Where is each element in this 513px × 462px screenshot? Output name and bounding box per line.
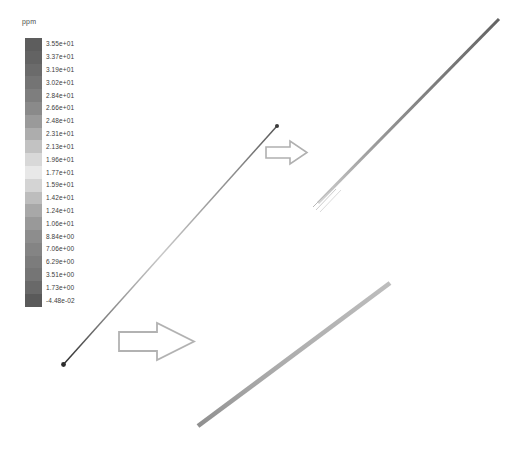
color-bar-swatch — [25, 64, 42, 77]
color-bar-tick-label: 1.06e+01 — [46, 220, 74, 228]
magnify-arrow-upper — [266, 141, 307, 164]
color-bar — [25, 38, 42, 307]
color-bar-swatch — [25, 166, 42, 179]
probe-endpoint-end — [275, 124, 279, 128]
color-bar-tick-label: 3.02e+01 — [46, 79, 74, 87]
color-bar-swatch — [25, 243, 42, 256]
color-bar-swatch — [25, 115, 42, 128]
color-bar-tick-label: 3.19e+01 — [46, 66, 74, 74]
color-bar-swatch — [25, 217, 42, 230]
color-legend: ppm 3.55e+013.37e+013.19e+013.02e+012.84… — [22, 18, 142, 318]
color-bar-swatch — [25, 102, 42, 115]
color-bar-tick-label: 1.77e+01 — [46, 169, 74, 177]
color-bar-tick-label: 2.48e+01 — [46, 117, 74, 125]
color-bar-swatch — [25, 89, 42, 102]
color-bar-swatch — [25, 179, 42, 192]
color-bar-tick-labels: 3.55e+013.37e+013.19e+013.02e+012.84e+01… — [46, 34, 138, 310]
probe-endpoint-start — [61, 362, 66, 367]
color-bar-swatch — [25, 230, 42, 243]
color-bar-tick-label: 3.51e+00 — [46, 271, 74, 279]
band-tail-upper-b — [316, 189, 336, 210]
magnified-band-upper — [313, 19, 499, 212]
color-bar-swatch — [25, 192, 42, 205]
color-bar-tick-label: 3.37e+01 — [46, 53, 74, 61]
color-bar-tick-label: 1.59e+01 — [46, 181, 74, 189]
color-bar-swatch — [25, 204, 42, 217]
color-bar-swatch — [25, 256, 42, 269]
color-bar-tick-label: 2.13e+01 — [46, 143, 74, 151]
plot-canvas: ppm 3.55e+013.37e+013.19e+013.02e+012.84… — [0, 0, 513, 462]
color-bar-swatch — [25, 140, 42, 153]
magnified-band-lower — [198, 283, 390, 426]
color-bar-swatch — [25, 38, 42, 51]
color-bar-swatch — [25, 76, 42, 89]
color-bar-tick-label: 2.66e+01 — [46, 104, 74, 112]
band-tail-upper-c — [320, 190, 341, 212]
color-bar-tick-label: 1.24e+01 — [46, 207, 74, 215]
magnify-arrow-lower-shape — [119, 323, 194, 360]
magnify-arrow-lower — [119, 323, 194, 360]
color-bar-swatch — [25, 51, 42, 64]
magnified-band-upper-strip — [318, 19, 499, 203]
magnified-band-lower-strip — [198, 283, 390, 426]
color-bar-tick-label: -4.48e-02 — [46, 297, 75, 305]
color-bar-tick-label: 1.42e+01 — [46, 194, 74, 202]
color-bar-tick-label: 1.73e+00 — [46, 284, 74, 292]
legend-unit-label: ppm — [22, 18, 36, 25]
color-bar-tick-label: 7.06e+00 — [46, 245, 74, 253]
band-tail-upper-a — [313, 188, 332, 207]
color-bar-tick-label: 1.96e+01 — [46, 156, 74, 164]
color-bar-swatch — [25, 128, 42, 141]
color-bar-swatch — [25, 268, 42, 281]
color-bar-swatch — [25, 281, 42, 294]
magnify-arrow-upper-shape — [266, 141, 307, 164]
color-bar-tick-label: 2.31e+01 — [46, 130, 74, 138]
color-bar-tick-label: 8.84e+00 — [46, 233, 74, 241]
color-bar-swatch — [25, 294, 42, 307]
color-bar-tick-label: 3.55e+01 — [46, 40, 74, 48]
color-bar-gradient — [25, 38, 42, 307]
color-bar-swatch — [25, 153, 42, 166]
color-bar-tick-label: 6.29e+00 — [46, 258, 74, 266]
color-bar-tick-label: 2.84e+01 — [46, 92, 74, 100]
